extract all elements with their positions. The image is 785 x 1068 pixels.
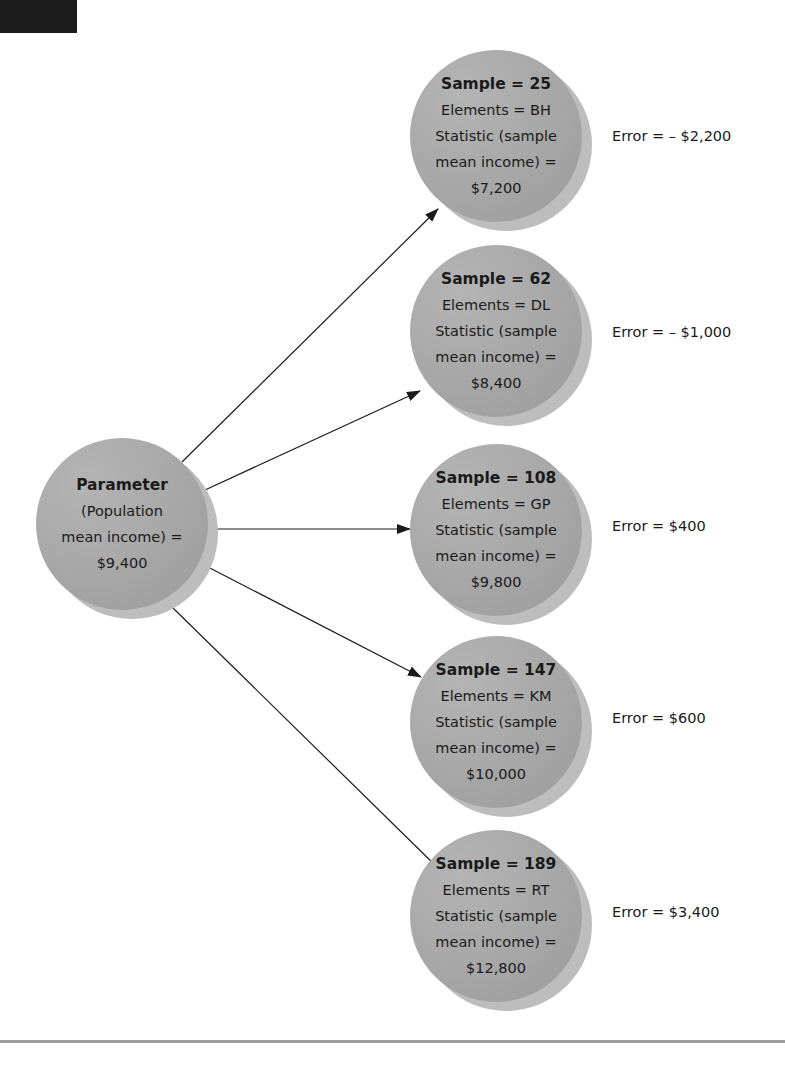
sample-value: $12,800 xyxy=(466,955,526,981)
sample-elements: Elements = GP xyxy=(442,491,551,517)
parameter-title: Parameter xyxy=(76,472,168,498)
sample-elements: Elements = KM xyxy=(441,683,552,709)
arrow-to-sample-189 xyxy=(173,608,440,870)
sample-elements: Elements = RT xyxy=(443,877,550,903)
sample-title: Sample = 108 xyxy=(436,465,557,491)
sample-title: Sample = 62 xyxy=(441,266,551,292)
sample-title: Sample = 189 xyxy=(436,851,557,877)
node-disc: Sample = 189 Elements = RT Statistic (sa… xyxy=(410,830,582,1002)
arrow-to-sample-147 xyxy=(206,566,421,677)
sample-statistic-line1: Statistic (sample xyxy=(435,903,557,929)
sample-statistic-line1: Statistic (sample xyxy=(435,709,557,735)
sample-title: Sample = 25 xyxy=(441,71,551,97)
node-disc: Sample = 62 Elements = DL Statistic (sam… xyxy=(410,245,582,417)
error-label: Error = $400 xyxy=(612,518,706,534)
sample-statistic-line2: mean income) = xyxy=(435,929,556,955)
sample-title: Sample = 147 xyxy=(436,657,557,683)
node-disc: Sample = 25 Elements = BH Statistic (sam… xyxy=(410,50,582,222)
sample-statistic-line2: mean income) = xyxy=(435,344,556,370)
sample-elements: Elements = BH xyxy=(441,97,551,123)
bottom-divider xyxy=(0,1040,785,1043)
sample-statistic-line2: mean income) = xyxy=(435,735,556,761)
sample-node: Sample = 147 Elements = KM Statistic (sa… xyxy=(410,636,582,808)
parameter-node: Parameter (Population mean income) = $9,… xyxy=(36,438,208,610)
sample-value: $10,000 xyxy=(466,761,526,787)
node-disc: Sample = 108 Elements = GP Statistic (sa… xyxy=(410,444,582,616)
parameter-line1: (Population xyxy=(81,498,163,524)
sample-node: Sample = 25 Elements = BH Statistic (sam… xyxy=(410,50,582,222)
error-label: Error = – $2,200 xyxy=(612,128,731,144)
node-disc: Sample = 147 Elements = KM Statistic (sa… xyxy=(410,636,582,808)
parameter-value: $9,400 xyxy=(97,550,148,576)
sample-node: Sample = 189 Elements = RT Statistic (sa… xyxy=(410,830,582,1002)
error-label: Error = $3,400 xyxy=(612,904,719,920)
sample-statistic-line1: Statistic (sample xyxy=(435,318,557,344)
error-label: Error = – $1,000 xyxy=(612,324,731,340)
sample-node: Sample = 108 Elements = GP Statistic (sa… xyxy=(410,444,582,616)
arrow-to-sample-25 xyxy=(182,209,438,462)
sample-statistic-line1: Statistic (sample xyxy=(435,123,557,149)
sample-elements: Elements = DL xyxy=(442,292,550,318)
error-label: Error = $600 xyxy=(612,710,706,726)
sample-node: Sample = 62 Elements = DL Statistic (sam… xyxy=(410,245,582,417)
arrow-to-sample-62 xyxy=(205,391,420,490)
sample-statistic-line2: mean income) = xyxy=(435,149,556,175)
sample-value: $8,400 xyxy=(471,370,522,396)
sample-value: $7,200 xyxy=(471,175,522,201)
sample-statistic-line2: mean income) = xyxy=(435,543,556,569)
sample-value: $9,800 xyxy=(471,569,522,595)
node-disc: Parameter (Population mean income) = $9,… xyxy=(36,438,208,610)
parameter-line2: mean income) = xyxy=(61,524,182,550)
sample-statistic-line1: Statistic (sample xyxy=(435,517,557,543)
